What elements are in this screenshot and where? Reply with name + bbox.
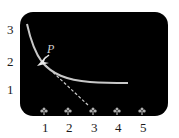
- tick-marker-icon: [89, 108, 96, 116]
- tick-marker-icon: [64, 108, 71, 116]
- chart: 3 2 1 1 2 3 4 5 P: [0, 0, 179, 138]
- tick-marker-icon: [138, 108, 145, 116]
- tick-marker-icon: [113, 108, 120, 116]
- tangent-line: [42, 62, 89, 106]
- x-tick-markers: [40, 108, 145, 116]
- tick-marker-icon: [40, 108, 47, 116]
- curve-line: [27, 24, 128, 83]
- point-p-label: P: [46, 42, 55, 56]
- plot-svg: P: [0, 0, 179, 138]
